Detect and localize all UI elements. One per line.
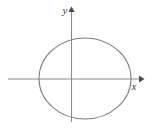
ellipse-figure: x y bbox=[0, 0, 152, 131]
y-axis-arrowhead-icon bbox=[68, 7, 74, 13]
y-axis-label: y bbox=[62, 4, 68, 16]
x-axis-arrowhead-icon bbox=[139, 76, 145, 83]
x-axis-label: x bbox=[131, 80, 137, 92]
coordinate-plane-svg: x y bbox=[0, 0, 152, 131]
